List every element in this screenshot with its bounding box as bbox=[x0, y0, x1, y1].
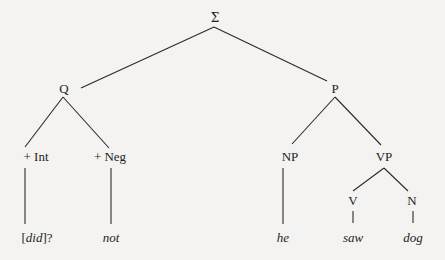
node-n: N bbox=[407, 193, 417, 208]
edge-vp-v bbox=[353, 168, 384, 191]
tree-leaves: [did]? not he saw dog bbox=[21, 230, 423, 245]
node-plus-neg: + Neg bbox=[94, 149, 127, 164]
leaf-he: he bbox=[277, 230, 290, 245]
node-plus-int: + Int bbox=[23, 149, 48, 164]
node-np: NP bbox=[282, 149, 299, 164]
node-q: Q bbox=[59, 81, 69, 96]
leaf-saw: saw bbox=[343, 230, 364, 245]
leaf-not: not bbox=[103, 230, 120, 245]
leaf-did-suffix: ]? bbox=[42, 230, 52, 245]
node-v: V bbox=[348, 193, 358, 208]
node-p: P bbox=[331, 81, 338, 96]
edge-q-neg bbox=[63, 97, 109, 148]
syntax-tree: Σ Q P + Int + Neg NP VP V N [did]? not h… bbox=[0, 0, 445, 260]
leaf-dog: dog bbox=[403, 230, 423, 245]
edge-p-np bbox=[292, 97, 335, 144]
tree-nodes: Σ Q P + Int + Neg NP VP V N bbox=[23, 11, 417, 208]
edge-sigma-q bbox=[81, 27, 214, 88]
leaf-did-word: did bbox=[26, 230, 43, 245]
edge-q-int bbox=[25, 97, 63, 147]
node-sigma: Σ bbox=[211, 11, 219, 25]
edge-vp-n bbox=[384, 168, 408, 191]
leaf-did: [did]? bbox=[21, 230, 52, 245]
edge-sigma-p bbox=[214, 27, 327, 81]
node-vp: VP bbox=[376, 149, 393, 164]
edge-p-vp bbox=[335, 97, 381, 145]
